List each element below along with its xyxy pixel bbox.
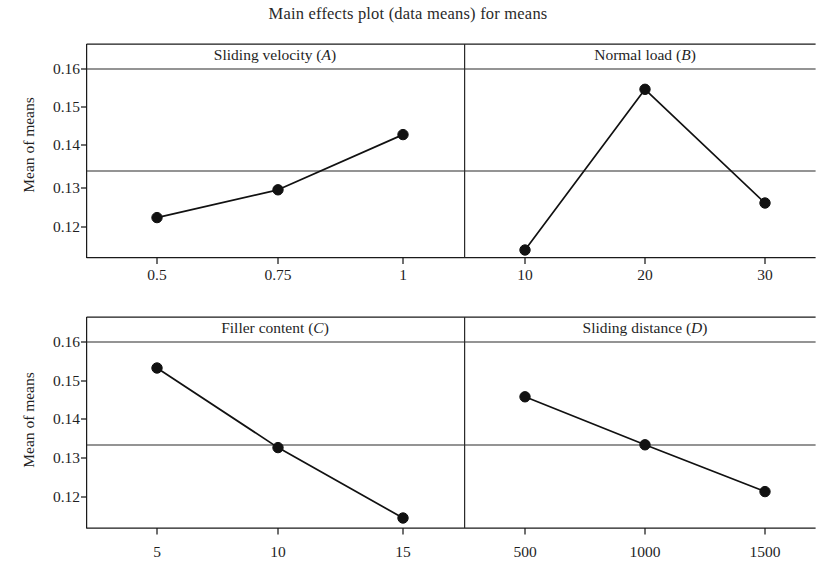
data-point-a-2 xyxy=(273,185,283,195)
y-tick-label: 0.12 xyxy=(22,219,80,235)
y-tick-labels-top: 0.16 0.15 0.14 0.13 0.12 xyxy=(22,38,80,290)
y-tick-label: 0.14 xyxy=(22,411,80,427)
data-point-d-1 xyxy=(520,392,530,402)
plot-area-bottom xyxy=(86,311,816,535)
y-tick-label: 0.14 xyxy=(22,137,80,153)
y-tick-label: 0.13 xyxy=(22,450,80,466)
y-tick-label: 0.15 xyxy=(22,373,80,389)
x-tick-label: 1500 xyxy=(750,543,781,561)
y-tick-labels-bottom: 0.16 0.15 0.14 0.13 0.12 xyxy=(22,311,80,567)
data-point-c-3 xyxy=(398,513,408,523)
y-tick-label: 0.15 xyxy=(22,99,80,115)
data-point-d-3 xyxy=(760,486,770,496)
series-line-panel-a xyxy=(157,135,403,218)
x-tick-label: 10 xyxy=(517,266,533,284)
x-tick-label: 20 xyxy=(637,266,653,284)
y-tick-label: 0.16 xyxy=(22,61,80,77)
y-tick-label: 0.13 xyxy=(22,180,80,196)
data-point-d-2 xyxy=(640,440,650,450)
x-tick-label: 15 xyxy=(395,543,411,561)
data-point-b-3 xyxy=(760,198,770,208)
panel-row-top: Mean of means 0.16 0.15 0.14 0.13 0.12 xyxy=(0,38,816,290)
x-tick-label: 1 xyxy=(399,266,407,284)
x-tick-label: 0.75 xyxy=(264,266,291,284)
x-tick-label: 0.5 xyxy=(147,266,166,284)
panel-row-bottom: Mean of means 0.16 0.15 0.14 0.13 0.12 xyxy=(0,311,816,567)
strip-label-sliding-distance: Sliding distance (D) xyxy=(583,319,708,337)
x-tick-label: 5 xyxy=(153,543,161,561)
page-title: Main effects plot (data means) for means xyxy=(0,4,816,24)
x-tick-label: 10 xyxy=(270,543,286,561)
series-line-panel-b xyxy=(525,89,765,250)
data-point-a-3 xyxy=(398,129,408,139)
y-tick-label: 0.12 xyxy=(22,489,80,505)
data-point-c-2 xyxy=(273,442,283,452)
data-point-b-1 xyxy=(520,245,530,255)
main-effects-plot-figure: Main effects plot (data means) for means… xyxy=(0,0,816,567)
x-tick-label: 30 xyxy=(757,266,773,284)
strip-label-normal-load: Normal load (B) xyxy=(594,46,696,64)
y-tick-label: 0.16 xyxy=(22,334,80,350)
x-tick-label: 500 xyxy=(513,543,536,561)
data-point-a-1 xyxy=(152,212,162,222)
x-tick-label: 1000 xyxy=(630,543,661,561)
data-point-b-2 xyxy=(640,84,650,94)
plot-area-top xyxy=(86,38,816,264)
data-point-c-1 xyxy=(152,363,162,373)
strip-label-sliding-velocity: Sliding velocity (A) xyxy=(214,46,336,64)
strip-label-filler-content: Filler content (C) xyxy=(221,319,329,337)
